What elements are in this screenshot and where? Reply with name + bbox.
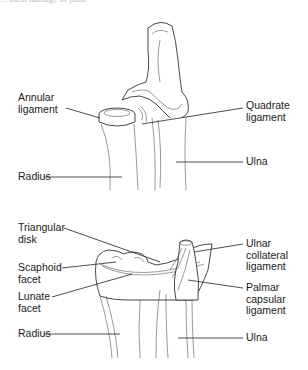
label-upper-radius: Radius — [18, 171, 51, 183]
label-annular-ligament: Annular ligament — [18, 92, 58, 115]
label-upper-ulna: Ulna — [246, 156, 268, 168]
label-quadrate-ligament: Quadrate ligament — [246, 100, 290, 123]
leader-quadrate-ligament — [142, 108, 243, 124]
label-lower-ulna: Ulna — [246, 332, 268, 344]
label-lower-radius: Radius — [18, 328, 51, 340]
label-lunate-facet: Lunate facet — [18, 291, 50, 314]
leader-annular-ligament — [66, 108, 100, 118]
label-palmar-capsular-ligament: Palmar capsular ligament — [246, 282, 286, 317]
label-ulnar-collateral-ligament: Ulnar collateral ligament — [246, 238, 288, 273]
label-scaphoid-facet: Scaphoid facet — [18, 262, 62, 285]
label-triangular-disk: Triangular disk — [18, 222, 65, 245]
upper-ulna-bone — [122, 22, 190, 190]
